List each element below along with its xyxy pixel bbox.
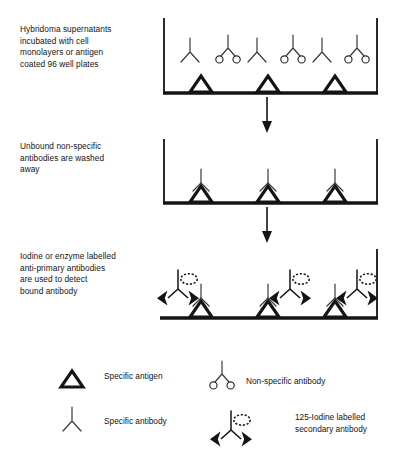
- legend-antibody-icon: [63, 407, 81, 431]
- immunoassay-diagram: Hybridoma supernatants incubated with ce…: [0, 0, 394, 467]
- antigen: [190, 301, 212, 317]
- secondary-antibody: [336, 270, 378, 306]
- specific-antibody: [248, 38, 266, 62]
- step-1-free-antibodies: [181, 35, 369, 63]
- specific-antibody: [313, 38, 331, 62]
- antigen: [324, 76, 346, 92]
- arrow-step1-to-step2: [262, 97, 272, 133]
- arrow-step2-to-step3: [262, 207, 272, 243]
- antigen: [324, 301, 346, 317]
- diagram-artwork: [0, 0, 394, 467]
- antigen: [257, 76, 279, 92]
- nonspecific-antibody: [281, 35, 305, 63]
- legend-label-secondary-antibody: 125-Iodine labelled secondary antibody: [295, 412, 367, 435]
- legend-antigen-icon: [61, 371, 83, 387]
- secondary-antibody: [269, 270, 311, 306]
- antigen: [190, 186, 212, 202]
- antigen: [257, 186, 279, 202]
- step-1-antigens: [190, 76, 346, 92]
- legend-nonspecific-antibody-icon: [210, 361, 234, 389]
- secondary-antibody: [157, 270, 199, 306]
- antigen: [190, 76, 212, 92]
- step-3-complexes: [157, 270, 378, 317]
- legend-secondary-antibody-icon: [210, 411, 252, 447]
- antigen: [257, 301, 279, 317]
- nonspecific-antibody: [345, 35, 369, 63]
- specific-antibody: [181, 38, 199, 62]
- antigen: [324, 186, 346, 202]
- step-2-complexes: [190, 169, 346, 202]
- legend-label-specific-antibody: Specific antibody: [104, 416, 167, 428]
- nonspecific-antibody: [216, 35, 240, 63]
- legend-label-specific-antigen: Specific antigen: [104, 371, 163, 383]
- legend-label-nonspecific-antibody: Non-specific antibody: [246, 376, 325, 388]
